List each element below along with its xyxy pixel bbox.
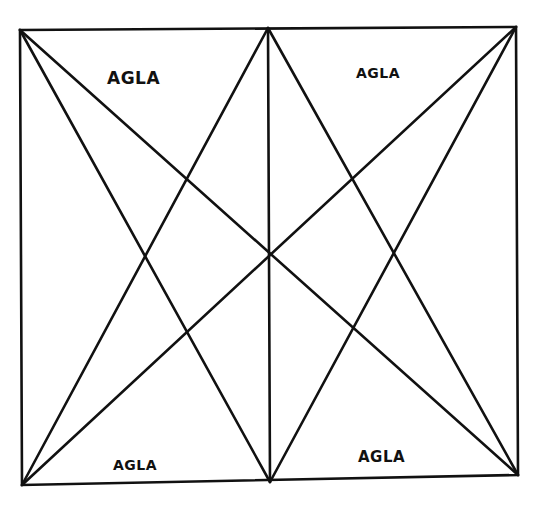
label-bottom-right: AGLA (358, 448, 405, 466)
label-top-right: AGLA (356, 65, 400, 81)
diagonal-topmid-bl (22, 28, 268, 485)
label-top-left: AGLA (107, 68, 160, 88)
talisman-diagram: AGLA AGLA AGLA AGLA (0, 0, 537, 505)
label-bottom-left: AGLA (113, 457, 157, 473)
